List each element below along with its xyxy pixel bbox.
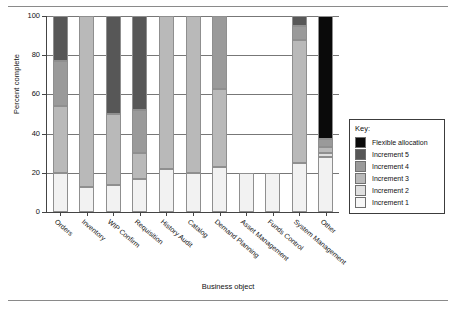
x-axis-tick [140, 212, 141, 216]
legend-item-label: Flexible allocation [372, 139, 428, 146]
y-axis-title: Percent complete [12, 54, 21, 114]
bar-segment [212, 89, 227, 167]
legend-item-label: Increment 4 [372, 163, 409, 170]
bar-segment [318, 153, 333, 157]
bar-segment [186, 16, 201, 173]
y-axis-tick-label: 0 [36, 208, 40, 216]
bar-segment [53, 106, 68, 173]
y-axis-tick [42, 134, 47, 135]
bar-segment [292, 26, 307, 40]
bar-segment [53, 173, 68, 212]
legend: Key: Flexible allocationIncrement 5Incre… [349, 119, 445, 214]
x-axis-tick-label: Inventory [80, 218, 107, 242]
x-axis-tick [299, 212, 300, 216]
x-axis-tick [193, 212, 194, 216]
bar-segment [318, 16, 333, 139]
bar-other[interactable] [318, 16, 333, 212]
x-axis-tick-label: Other [319, 218, 337, 235]
legend-swatch-icon [355, 161, 366, 172]
bar-segment [292, 163, 307, 212]
x-axis-tick-label: System Management [293, 218, 348, 266]
y-axis-tick-label: 40 [32, 130, 40, 138]
bar-catalog[interactable] [186, 16, 201, 212]
bar-segment [292, 40, 307, 163]
bar-segment [292, 16, 307, 26]
bar-segment [79, 187, 94, 212]
x-axis-tick-label: Catalog [187, 218, 210, 239]
bar-funds-control[interactable] [265, 16, 280, 212]
legend-swatch-icon [355, 149, 366, 160]
legend-swatch-icon [355, 173, 366, 184]
legend-swatch-icon [355, 197, 366, 208]
plot-area: 020406080100OrdersInventoryWIP ConfirmRe… [46, 16, 339, 213]
bar-system-management[interactable] [292, 16, 307, 212]
bar-segment [318, 139, 333, 147]
bar-inventory[interactable] [79, 16, 94, 212]
legend-item-label: Increment 5 [372, 151, 409, 158]
x-axis-tick-label: Orders [54, 218, 75, 237]
x-axis-tick [326, 212, 327, 216]
bar-segment [239, 173, 254, 212]
legend-item[interactable]: Increment 2 [355, 184, 440, 196]
legend-rows: Flexible allocationIncrement 5Increment … [355, 136, 440, 208]
bar-segment [186, 173, 201, 212]
y-axis-tick-label: 80 [32, 51, 40, 59]
y-axis-tick [42, 94, 47, 95]
x-axis-tick-label: Asset Management [240, 218, 291, 262]
legend-item[interactable]: Increment 5 [355, 148, 440, 160]
chart: Percent complete 020406080100OrdersInven… [0, 0, 456, 319]
x-axis-tick [166, 212, 167, 216]
legend-item[interactable]: Increment 3 [355, 172, 440, 184]
x-axis-tick [60, 212, 61, 216]
bar-segment [106, 185, 121, 212]
legend-item[interactable]: Increment 4 [355, 160, 440, 172]
bar-segment [53, 16, 68, 61]
y-axis-tick-label: 100 [27, 12, 40, 20]
legend-title: Key: [355, 124, 440, 133]
legend-item[interactable]: Increment 1 [355, 196, 440, 208]
y-axis-tick [42, 55, 47, 56]
bar-segment [106, 114, 121, 185]
y-axis-tick [42, 16, 47, 17]
bar-segment [132, 153, 147, 178]
bar-segment [159, 169, 174, 212]
y-axis-tick [42, 173, 47, 174]
x-axis-tick-label: Demand Planning [213, 218, 260, 259]
bar-segment [265, 173, 280, 212]
legend-swatch-icon [355, 185, 366, 196]
x-axis-tick [220, 212, 221, 216]
bar-demand-planning[interactable] [212, 16, 227, 212]
y-axis-tick [42, 212, 47, 213]
bar-segment [159, 16, 174, 169]
bar-wip-confirm[interactable] [106, 16, 121, 212]
bar-segment [132, 179, 147, 212]
legend-item-label: Increment 3 [372, 175, 409, 182]
bar-segment [132, 110, 147, 153]
y-axis-tick-label: 20 [32, 169, 40, 177]
bar-segment [212, 167, 227, 212]
bar-requisition[interactable] [132, 16, 147, 212]
legend-item[interactable]: Flexible allocation [355, 136, 440, 148]
x-axis-tick [273, 212, 274, 216]
legend-swatch-icon [355, 137, 366, 148]
bar-segment [79, 16, 94, 187]
legend-item-label: Increment 1 [372, 199, 409, 206]
bar-history-audit[interactable] [159, 16, 174, 212]
bar-segment [212, 16, 227, 89]
bar-orders[interactable] [53, 16, 68, 212]
bar-asset-management[interactable] [239, 16, 254, 212]
legend-item-label: Increment 2 [372, 187, 409, 194]
y-axis-tick-label: 60 [32, 91, 40, 99]
bar-segment [318, 147, 333, 153]
x-axis-title: Business object [0, 282, 456, 291]
x-axis-tick [113, 212, 114, 216]
figure: Percent complete 020406080100OrdersInven… [0, 0, 456, 319]
bar-segment [53, 61, 68, 106]
x-axis-tick [246, 212, 247, 216]
bar-segment [132, 16, 147, 110]
bar-segment [318, 157, 333, 212]
x-axis-tick [87, 212, 88, 216]
bar-segment [106, 16, 121, 114]
